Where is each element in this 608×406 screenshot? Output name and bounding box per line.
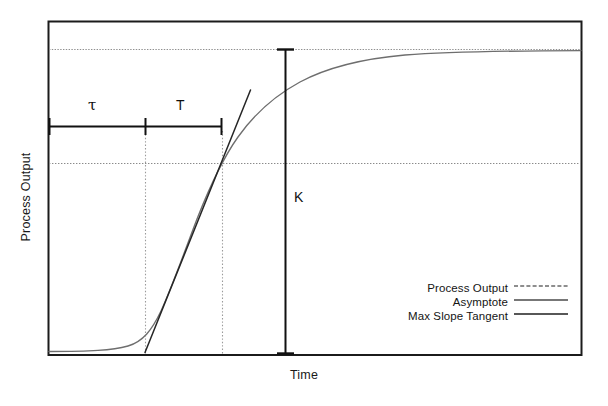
legend-label-max-slope-tangent: Max Slope Tangent xyxy=(408,310,508,322)
y-axis-label: Process Output xyxy=(19,127,33,267)
x-axis-label: Time xyxy=(0,368,608,382)
max-slope-tangent-line xyxy=(145,90,251,353)
legend-samples xyxy=(514,286,568,314)
tau-annotation-label: τ xyxy=(88,96,96,114)
tau-t-measure-bar xyxy=(49,118,222,135)
legend-label-asymptote: Asymptote xyxy=(453,296,508,308)
chart-canvas xyxy=(0,0,608,406)
chart-figure: Process Output Time τ T K Process Output… xyxy=(0,0,608,406)
t-annotation-label: T xyxy=(176,97,185,113)
k-annotation-label: K xyxy=(294,189,303,205)
legend-label-process-output: Process Output xyxy=(427,282,508,294)
